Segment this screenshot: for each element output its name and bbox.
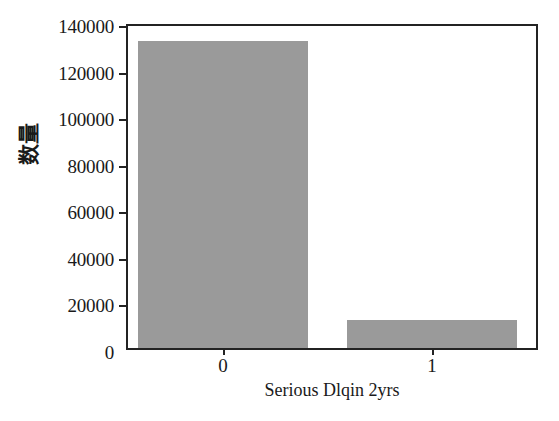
bar-category-1 <box>347 320 517 348</box>
x-tick-mark <box>432 348 434 355</box>
y-tick-label: 140000 <box>58 17 114 36</box>
y-tick-mark <box>119 26 128 28</box>
y-tick-label: 80000 <box>67 156 114 175</box>
y-tick-label: 0 <box>105 343 114 362</box>
y-tick-mark <box>119 212 128 214</box>
y-tick-mark <box>119 119 128 121</box>
x-tick-label: 1 <box>427 356 437 375</box>
x-tick-mark <box>223 348 225 355</box>
y-tick-label: 20000 <box>67 296 114 315</box>
y-axis-label: 数量 <box>18 139 40 165</box>
y-tick-mark <box>119 73 128 75</box>
y-tick-mark <box>119 166 128 168</box>
bar-chart-figure: 140000 120000 100000 80000 60000 40000 2… <box>0 0 559 421</box>
y-tick-label: 40000 <box>67 249 114 268</box>
y-tick-label: 120000 <box>58 63 114 82</box>
x-axis-label: Serious Dlqin 2yrs <box>126 381 538 399</box>
y-tick-label: 100000 <box>58 110 114 129</box>
y-tick-mark <box>119 259 128 261</box>
x-tick-label: 0 <box>218 356 228 375</box>
y-tick-label: 60000 <box>67 203 114 222</box>
plot-area: 140000 120000 100000 80000 60000 40000 2… <box>126 24 538 350</box>
bar-category-0 <box>138 41 308 348</box>
y-tick-mark <box>119 305 128 307</box>
